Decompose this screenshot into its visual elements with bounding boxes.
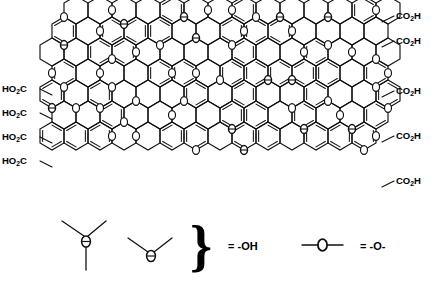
left-carboxyl-label: HO2C <box>2 107 27 119</box>
oxygen-icon <box>169 69 176 78</box>
graphene-oxide-figure: HO2CHO2CHO2CHO2C CO2HCO2HCO2HCO2HCO2H } <box>0 0 439 286</box>
oxygen-icon <box>109 132 116 141</box>
left-carboxyl-label: HO2C <box>2 131 27 143</box>
oxygen-icon <box>325 97 332 106</box>
oxygen-icon <box>241 27 248 36</box>
right-carboxyl-label: CO2H <box>396 130 421 142</box>
oxygen-icon <box>217 76 224 85</box>
oxygen-icon <box>97 27 104 36</box>
oxygen-icon <box>133 48 140 57</box>
right-carboxyl-label: CO2H <box>396 35 421 47</box>
oxygen-icon <box>253 13 260 22</box>
oxygen-icon <box>373 132 380 141</box>
oxygen-icon <box>373 55 380 64</box>
oxygen-icon <box>193 69 200 78</box>
oxygen-icon <box>97 104 104 113</box>
oxygen-icon <box>133 132 140 141</box>
oxygen-icon <box>61 83 68 92</box>
oxygen-icon <box>49 69 56 78</box>
oxygen-icon <box>133 97 140 106</box>
oxygen-icon <box>157 41 164 50</box>
oxygen-icon <box>121 118 128 127</box>
oxygen-icon <box>289 27 296 36</box>
oxygen-icon <box>181 97 188 106</box>
oxygen-icon <box>318 239 327 251</box>
right-carboxyl-label: CO2H <box>396 10 421 22</box>
oxygen-icon <box>361 146 368 155</box>
oxygen-icon <box>109 55 116 64</box>
oxygen-icon <box>109 83 116 92</box>
oxygen-icon <box>325 41 332 50</box>
oxygen-icon <box>289 104 296 113</box>
oxygen-icon <box>301 48 308 57</box>
oxygen-icon <box>169 111 176 120</box>
oxygen-icon <box>205 6 212 15</box>
oxygen-icon <box>373 6 380 15</box>
oxygen-icon <box>61 13 68 22</box>
left-carboxyl-label: HO2C <box>2 155 27 167</box>
legend-brace: } <box>190 215 212 277</box>
oxygen-icon <box>97 69 104 78</box>
right-carboxyl-label: CO2H <box>396 175 421 187</box>
structure-svg: HO2CHO2CHO2CHO2C CO2HCO2HCO2HCO2HCO2H } <box>0 0 439 286</box>
oxygen-icon <box>229 6 236 15</box>
oxygen-icon <box>385 69 392 78</box>
oxygen-icon <box>385 104 392 113</box>
left-carboxyl-label: HO2C <box>2 83 27 95</box>
oxygen-icon <box>349 48 356 57</box>
oxygen-icon <box>73 104 80 113</box>
oxygen-icon <box>109 6 116 15</box>
legend-ether-text: = -O- <box>360 240 386 252</box>
right-carboxyl-label: CO2H <box>396 85 421 97</box>
oxygen-icon <box>229 41 236 50</box>
oxygen-icon <box>193 146 200 155</box>
oxygen-icon <box>337 111 344 120</box>
oxygen-icon <box>373 83 380 92</box>
legend-hydroxyl-text: = -OH <box>228 240 258 252</box>
